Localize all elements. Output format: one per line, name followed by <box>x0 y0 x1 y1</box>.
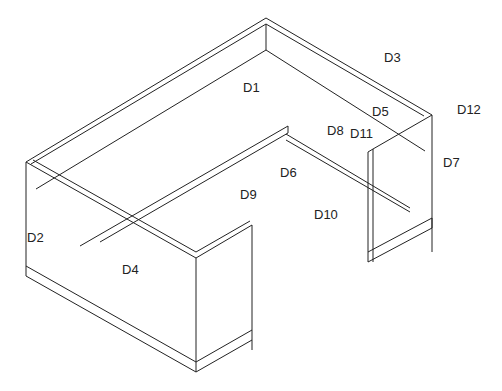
dimension-label-d4: D4 <box>122 262 139 277</box>
dimension-label-d6: D6 <box>280 165 297 180</box>
dimension-label-d7: D7 <box>443 155 460 170</box>
dimension-label-d5: D5 <box>372 104 389 119</box>
dimension-label-d8: D8 <box>327 123 344 138</box>
dimension-label-d3: D3 <box>384 50 401 65</box>
dimension-label-d11: D11 <box>350 126 373 141</box>
dimension-label-d2: D2 <box>27 230 44 245</box>
dimension-label-d12: D12 <box>457 102 481 117</box>
dimension-label-d9: D9 <box>240 187 257 202</box>
dimension-label-d1: D1 <box>243 80 260 95</box>
dimension-label-d10: D10 <box>314 207 338 222</box>
cabinet-drawing: D1 D2 D3 D4 D5 D6 D7 D8 D9 D10 D11 D12 <box>0 0 502 391</box>
